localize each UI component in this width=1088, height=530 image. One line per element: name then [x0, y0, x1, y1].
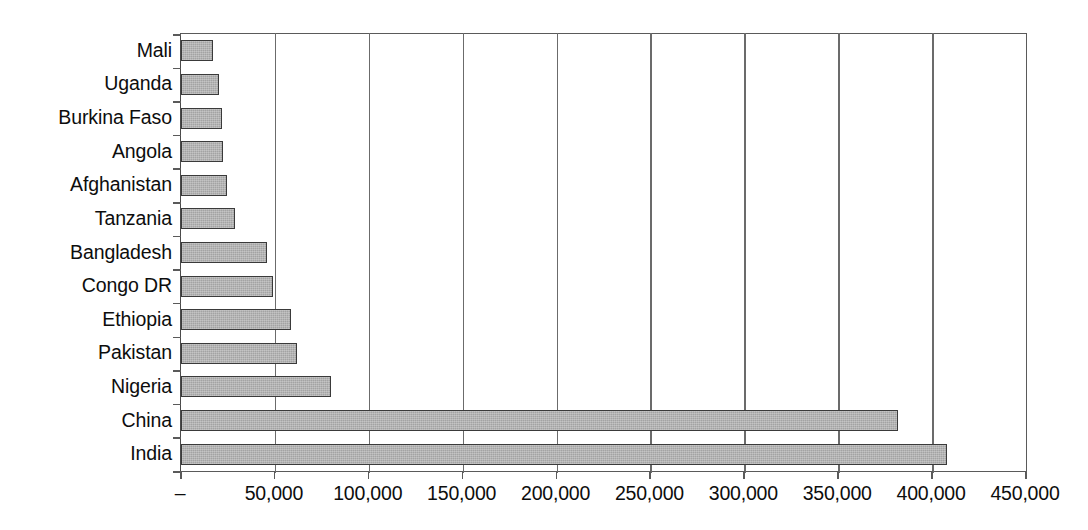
- category-tick: [173, 404, 181, 406]
- bar[interactable]: [181, 309, 291, 330]
- value-tick-label: 300,000: [709, 482, 778, 504]
- value-tick: [1025, 471, 1027, 479]
- category-label: Angola: [0, 141, 172, 161]
- bar[interactable]: [181, 410, 898, 431]
- category-label: Uganda: [0, 73, 172, 93]
- category-label: Mali: [0, 40, 172, 60]
- value-tick-label: 250,000: [615, 482, 684, 504]
- bar[interactable]: [181, 343, 297, 364]
- bar-row: [181, 337, 1026, 371]
- value-tick-label: 200,000: [521, 482, 590, 504]
- category-tick: [173, 303, 181, 305]
- value-tick-label: 100,000: [333, 482, 402, 504]
- bar[interactable]: [181, 242, 267, 263]
- bar-chart: MaliUgandaBurkina FasoAngolaAfghanistanT…: [0, 0, 1088, 530]
- category-label: Burkina Faso: [0, 107, 172, 127]
- bar-row: [181, 34, 1026, 68]
- value-tick: [180, 471, 182, 479]
- category-tick: [173, 202, 181, 204]
- category-tick: [173, 269, 181, 271]
- bar[interactable]: [181, 276, 273, 297]
- value-tick: [743, 471, 745, 479]
- category-tick: [173, 135, 181, 137]
- bar-row: [181, 303, 1026, 337]
- category-label: Pakistan: [0, 342, 172, 362]
- category-tick: [173, 168, 181, 170]
- bar-row: [181, 135, 1026, 169]
- bar-row: [181, 168, 1026, 202]
- category-label: India: [0, 443, 172, 463]
- value-tick: [368, 471, 370, 479]
- plot-area: [180, 33, 1027, 472]
- value-axis: –50,000100,000150,000200,000250,000300,0…: [0, 471, 1088, 516]
- value-tick-label: 400,000: [897, 482, 966, 504]
- value-tick: [462, 471, 464, 479]
- bar[interactable]: [181, 40, 213, 61]
- bar[interactable]: [181, 208, 235, 229]
- bar[interactable]: [181, 175, 227, 196]
- bar[interactable]: [181, 74, 219, 95]
- value-tick-label: 450,000: [990, 482, 1059, 504]
- bar-row: [181, 68, 1026, 102]
- bar-row: [181, 101, 1026, 135]
- bar-row: [181, 269, 1026, 303]
- category-tick: [173, 370, 181, 372]
- bar-row: [181, 202, 1026, 236]
- category-label: Tanzania: [0, 208, 172, 228]
- category-tick: [173, 337, 181, 339]
- category-label: Nigeria: [0, 376, 172, 396]
- category-label: China: [0, 410, 172, 430]
- value-tick: [649, 471, 651, 479]
- value-tick: [931, 471, 933, 479]
- category-label: Afghanistan: [0, 174, 172, 194]
- category-tick: [173, 34, 181, 36]
- bar[interactable]: [181, 444, 947, 465]
- bar-row: [181, 370, 1026, 404]
- value-tick: [274, 471, 276, 479]
- bar[interactable]: [181, 376, 331, 397]
- value-tick-label: 350,000: [803, 482, 872, 504]
- value-tick-label: 150,000: [427, 482, 496, 504]
- category-tick: [173, 101, 181, 103]
- value-tick: [556, 471, 558, 479]
- bar[interactable]: [181, 141, 223, 162]
- category-tick: [173, 437, 181, 439]
- category-label: Ethiopia: [0, 309, 172, 329]
- value-tick-label: –: [175, 482, 186, 504]
- value-tick: [837, 471, 839, 479]
- bar[interactable]: [181, 108, 222, 129]
- bar-row: [181, 236, 1026, 270]
- category-label: Bangladesh: [0, 242, 172, 262]
- category-tick: [173, 236, 181, 238]
- category-axis: MaliUgandaBurkina FasoAngolaAfghanistanT…: [0, 33, 172, 470]
- bar-row: [181, 437, 1026, 471]
- category-tick: [173, 68, 181, 70]
- bar-row: [181, 404, 1026, 438]
- category-label: Congo DR: [0, 275, 172, 295]
- value-tick-label: 50,000: [245, 482, 303, 504]
